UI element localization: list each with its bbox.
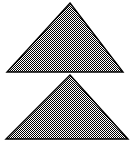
figure-canvas: Upper triangle Lower triangle bbox=[0, 0, 135, 146]
triangles-svg bbox=[0, 0, 135, 146]
